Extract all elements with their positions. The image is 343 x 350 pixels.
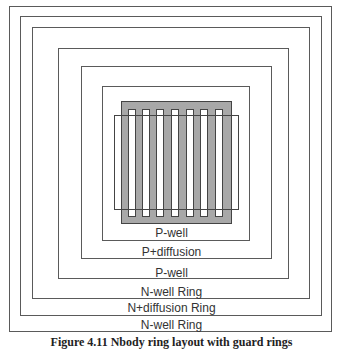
ring-label: N-well Ring — [0, 318, 343, 332]
ring-label: P+diffusion — [0, 245, 343, 259]
ring-label: N+diffusion Ring — [0, 301, 343, 315]
ring-label: P-well — [0, 226, 343, 240]
ring-label: N-well Ring — [0, 285, 343, 299]
active-area-outline — [114, 115, 239, 210]
figure-caption: Figure 4.11 Nbody ring layout with guard… — [0, 335, 343, 350]
ring-label: P-well — [0, 266, 343, 280]
